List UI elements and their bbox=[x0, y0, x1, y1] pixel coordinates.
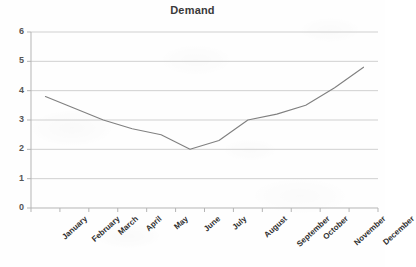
gridlines bbox=[31, 32, 378, 179]
demand-line-series bbox=[45, 67, 363, 149]
y-axis-tick-label: 5 bbox=[6, 56, 24, 65]
x-axis-ticks bbox=[27, 32, 378, 212]
y-axis-tick-label: 2 bbox=[6, 144, 24, 153]
y-axis-tick-label: 0 bbox=[6, 203, 24, 212]
y-axis-tick-label: 3 bbox=[6, 115, 24, 124]
y-axis-tick-label: 6 bbox=[6, 27, 24, 36]
y-axis-tick-label: 1 bbox=[6, 174, 24, 183]
y-axis-tick-label: 4 bbox=[6, 86, 24, 95]
